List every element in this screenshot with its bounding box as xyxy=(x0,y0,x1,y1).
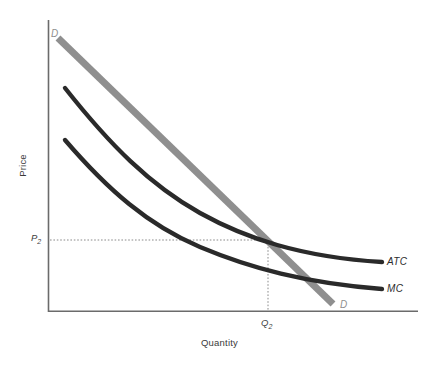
chart-figure: Quantity Price P2 Q2 ATC MC D D xyxy=(0,0,439,365)
demand-curve xyxy=(58,38,333,304)
quantity-tick-subscript: 2 xyxy=(268,323,272,330)
chart-plot-area xyxy=(0,0,439,365)
price-tick-subscript: 2 xyxy=(37,238,41,245)
quantity-tick-label: Q2 xyxy=(261,317,272,330)
y-axis-title: Price xyxy=(17,134,28,198)
mc-curve-label: MC xyxy=(387,283,403,294)
atc-curve xyxy=(65,88,382,262)
atc-curve-label: ATC xyxy=(387,256,407,267)
x-axis-title: Quantity xyxy=(0,337,439,348)
demand-curve-label-bottom: D xyxy=(340,299,347,310)
price-tick-label: P2 xyxy=(31,232,41,245)
demand-curve-label-top: D xyxy=(51,28,58,39)
mc-curve xyxy=(65,140,382,289)
